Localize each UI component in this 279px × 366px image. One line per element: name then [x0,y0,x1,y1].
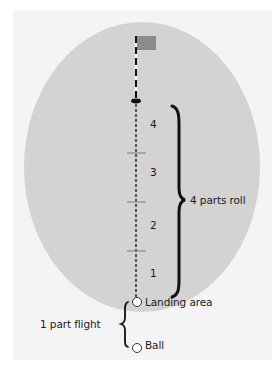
putting-green-diagram [0,0,279,366]
segment-label: 4 [150,119,157,130]
landing-area-label: Landing area [145,297,212,308]
flag [137,36,156,50]
putting-green [24,22,260,312]
flight-label: 1 part flight [40,319,101,330]
segment-label: 1 [150,268,157,279]
landing-circle-icon [133,298,142,307]
hole-icon [131,99,141,104]
segment-label: 2 [150,220,157,231]
roll-label: 4 parts roll [190,195,246,206]
ball-label: Ball [145,340,164,351]
ball-icon [133,344,142,353]
segment-label: 3 [150,167,157,178]
